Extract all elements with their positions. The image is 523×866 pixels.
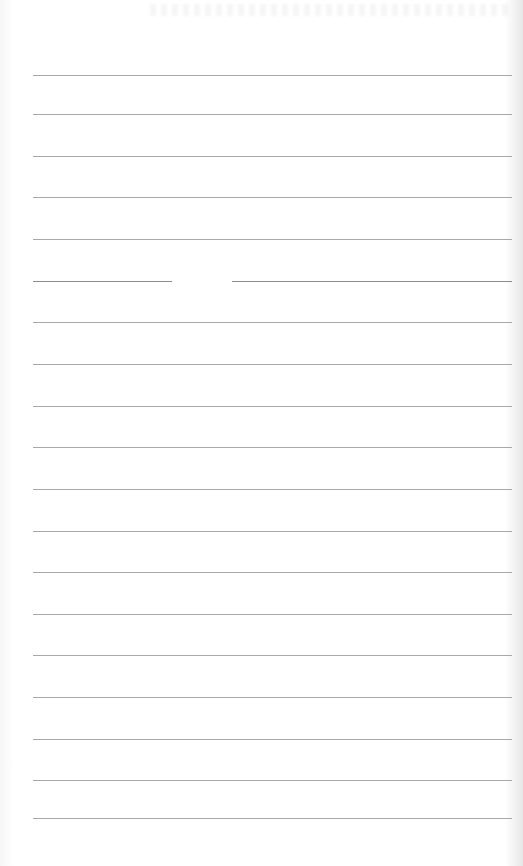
show-through-texture [150,4,510,16]
ruled-line [33,197,512,198]
ruled-line [33,818,512,819]
ruled-line [33,531,512,532]
ruled-line [33,322,512,323]
ruled-line [33,114,512,115]
ruled-line [33,614,512,615]
ruled-line [33,239,512,240]
ruled-line [33,739,512,740]
ruled-line [33,156,512,157]
ruled-line [33,489,512,490]
ruled-line [33,75,512,76]
ruled-line-segment [232,281,512,282]
ruled-line [33,655,512,656]
lined-paper [0,0,523,866]
ruled-line-segment [33,281,172,282]
ruled-line [33,697,512,698]
ruled-line [33,780,512,781]
ruled-line [33,364,512,365]
ruled-line [33,572,512,573]
ruled-line [33,447,512,448]
ruled-line [33,406,512,407]
